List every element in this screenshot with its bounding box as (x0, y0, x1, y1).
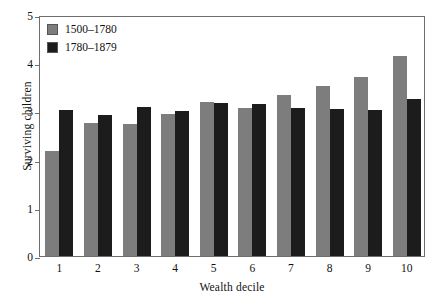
bar (137, 107, 151, 256)
bar (123, 124, 137, 256)
legend-swatch-icon (47, 42, 58, 53)
x-axis-tick-label: 1 (56, 263, 62, 275)
x-axis-tick-label: 8 (327, 263, 333, 275)
y-axis-tick-label: 0 (27, 252, 33, 264)
y-axis-tick-mark (35, 258, 40, 259)
bar (84, 123, 98, 256)
x-axis-tick-label: 9 (365, 263, 371, 275)
bar (59, 110, 73, 256)
bar (393, 56, 407, 256)
bar (407, 99, 421, 256)
y-axis-tick-mark (35, 113, 40, 114)
bar (214, 103, 228, 256)
legend-item-label: 1780–1879 (65, 42, 117, 54)
bar (161, 114, 175, 256)
y-axis-tick-mark (35, 162, 40, 163)
legend-item: 1500–1780 (47, 22, 117, 37)
x-axis-tick-label: 4 (172, 263, 178, 275)
bar (330, 109, 344, 256)
legend-item-label: 1500–1780 (65, 24, 117, 36)
y-axis-tick-mark (35, 65, 40, 66)
y-axis-tick-label: 5 (27, 11, 33, 23)
x-axis-tick-label: 7 (288, 263, 294, 275)
bar (291, 108, 305, 256)
y-axis-tick-label: 4 (27, 59, 33, 71)
bar (316, 86, 330, 256)
bar (277, 95, 291, 256)
bar (45, 151, 59, 256)
x-axis-tick-label: 2 (95, 263, 101, 275)
x-axis-title: Wealth decile (39, 281, 425, 293)
x-axis-tick-label: 10 (401, 263, 413, 275)
y-axis-tick-label: 1 (27, 204, 33, 216)
bar-chart: Surviving children 01234512345678910 Wea… (0, 0, 435, 303)
bar (98, 115, 112, 256)
y-axis-tick-label: 3 (27, 108, 33, 120)
legend-swatch-icon (47, 24, 58, 35)
bar (368, 110, 382, 256)
bar (175, 111, 189, 256)
x-axis-tick-label: 6 (249, 263, 255, 275)
bar (200, 102, 214, 256)
bar (252, 104, 266, 256)
y-axis-tick-label: 2 (27, 156, 33, 168)
x-axis-tick-label: 5 (211, 263, 217, 275)
y-axis-tick-mark (35, 17, 40, 18)
x-axis-tick-label: 3 (134, 263, 140, 275)
legend-item: 1780–1879 (47, 40, 117, 55)
y-axis-tick-mark (35, 210, 40, 211)
chart-legend: 1500–17801780–1879 (47, 22, 117, 58)
bar (238, 108, 252, 256)
bar (354, 77, 368, 256)
